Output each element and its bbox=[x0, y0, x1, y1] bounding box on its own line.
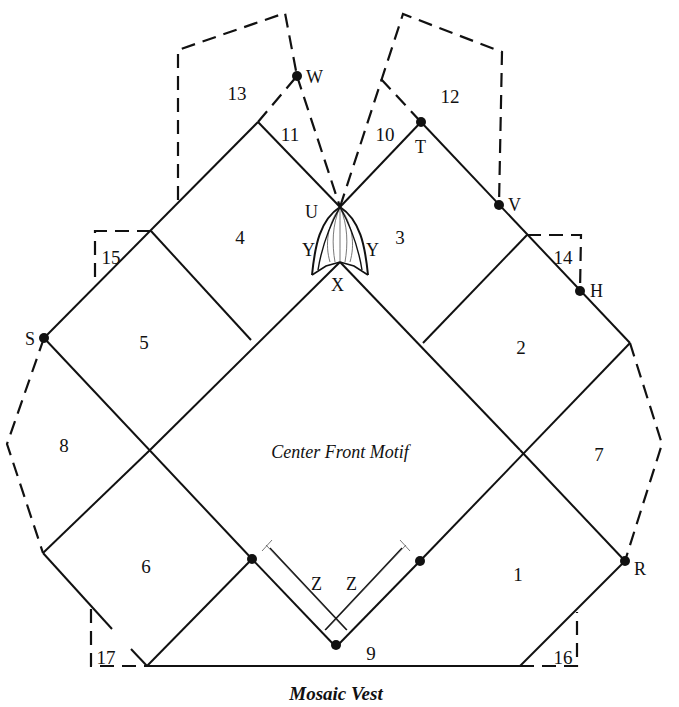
point-w-label: W bbox=[306, 67, 323, 87]
dimension-z-right-label: Z bbox=[346, 574, 357, 594]
panel-6-label: 6 bbox=[141, 556, 151, 577]
mosaic-vest-diagram: 1 2 3 4 5 6 7 8 9 10 11 12 13 14 15 16 1… bbox=[0, 0, 679, 707]
panel-3-label: 3 bbox=[395, 227, 405, 248]
point-y-left-label: Y bbox=[302, 240, 315, 260]
dashed-extensions bbox=[7, 13, 662, 666]
dimension-z-left-label: Z bbox=[311, 574, 322, 594]
point-bottom-z-dot bbox=[331, 640, 341, 650]
point-labels: S W T V H R U Y Y X Z Z bbox=[25, 67, 646, 594]
point-r-label: R bbox=[634, 559, 646, 579]
point-left-z-dot bbox=[247, 554, 257, 564]
panel-8-label: 8 bbox=[59, 435, 69, 456]
point-markers bbox=[39, 71, 630, 650]
point-w-dot bbox=[292, 71, 302, 81]
panel-10-label: 10 bbox=[376, 124, 395, 145]
panel-1-label: 1 bbox=[513, 564, 523, 585]
panel-2-label: 2 bbox=[516, 337, 526, 358]
panel-17-label: 17 bbox=[97, 647, 116, 668]
point-s-label: S bbox=[25, 329, 35, 349]
panel-4-label: 4 bbox=[235, 227, 245, 248]
point-v-label: V bbox=[508, 195, 521, 215]
point-s-dot bbox=[39, 333, 49, 343]
panel-9-label: 9 bbox=[366, 643, 376, 664]
panel-14-label: 14 bbox=[554, 247, 574, 268]
figure-caption: Mosaic Vest bbox=[288, 683, 383, 704]
panel-7-label: 7 bbox=[594, 444, 604, 465]
point-v-dot bbox=[494, 200, 504, 210]
point-t-label: T bbox=[415, 137, 426, 157]
point-right-z-dot bbox=[415, 556, 425, 566]
point-r-dot bbox=[620, 556, 630, 566]
dart-shape bbox=[312, 207, 368, 275]
panel-labels: 1 2 3 4 5 6 7 8 9 10 11 12 13 14 15 16 1… bbox=[59, 83, 604, 668]
panel-16-label: 16 bbox=[554, 647, 573, 668]
panel-11-label: 11 bbox=[281, 124, 299, 145]
point-t-dot bbox=[416, 117, 426, 127]
solid-seams bbox=[43, 122, 630, 666]
point-y-right-label: Y bbox=[366, 240, 379, 260]
point-x-label: X bbox=[331, 275, 344, 295]
point-h-label: H bbox=[590, 281, 603, 301]
panel-5-label: 5 bbox=[139, 332, 149, 353]
point-u-label: U bbox=[305, 202, 318, 222]
panel-12-label: 12 bbox=[441, 86, 460, 107]
panel-13-label: 13 bbox=[228, 83, 247, 104]
center-front-motif-label: Center Front Motif bbox=[271, 442, 411, 462]
panel-15-label: 15 bbox=[102, 247, 121, 268]
point-h-dot bbox=[575, 286, 585, 296]
